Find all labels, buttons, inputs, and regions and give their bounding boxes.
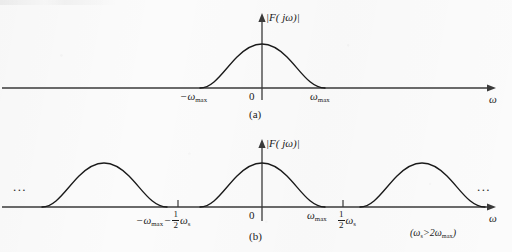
- panel-b-half-ws-label: 12ωs: [337, 210, 356, 230]
- panel-a-x-axis-arrowhead: [487, 84, 496, 91]
- panel-a-y-axis-label: |F( jω)|: [266, 12, 300, 23]
- condition-close-paren: ): [453, 227, 456, 238]
- panel-b-right-frac-numerator: 1: [338, 210, 345, 219]
- panel-b-caption: (b): [249, 230, 262, 242]
- panel-b-left-frac-denominator: 2: [172, 221, 179, 230]
- panel-b-right-fraction: 12: [338, 210, 345, 230]
- panel-b-origin-label: 0: [249, 210, 255, 221]
- panel-a-right-cutoff-label: ωmax: [310, 91, 330, 104]
- panel-b-right-frac-denominator: 2: [338, 221, 345, 230]
- panel-a-left-cutoff-label: −ωmax: [180, 91, 207, 104]
- panel-b-left-ellipsis: ...: [13, 179, 27, 195]
- panel-b-right-cutoff-label: ωmax: [307, 210, 327, 223]
- panel-a-origin-label: 0: [249, 91, 255, 102]
- panel-b-left-group-fraction: 12: [172, 210, 179, 230]
- panel-b-right-cutoff-sub: max: [315, 215, 327, 222]
- panel-b-left-group-label: −ωmax−12ωs: [136, 210, 191, 230]
- panel-b-replica-left-curve: [42, 163, 167, 207]
- condition-open-paren: (ω: [410, 227, 420, 238]
- panel-b-left-omega-s-sub: s: [188, 220, 191, 227]
- panel-a-y-axis-arrowhead: [258, 13, 265, 22]
- panel-b-x-axis-arrowhead: [487, 203, 496, 210]
- panel-b-y-axis-arrowhead: [258, 139, 265, 148]
- figure-container: |F( jω)| −ωmax 0 ωmax ω (a) |F( jω)| .: [0, 0, 512, 252]
- panel-b-left-group-sub: max: [151, 220, 163, 227]
- condition-inequality: >2ω: [423, 227, 442, 238]
- panel-b-left-frac-numerator: 1: [172, 210, 179, 219]
- panel-a-left-cutoff-base: −ω: [180, 90, 195, 102]
- condition-omega-max-sub: max: [442, 232, 453, 239]
- panel-a-right-cutoff-base: ω: [310, 90, 318, 102]
- panel-a-x-axis-label: ω: [489, 93, 497, 105]
- panel-a: |F( jω)| −ωmax 0 ωmax ω (a): [0, 0, 512, 126]
- panel-b-right-cutoff-base: ω: [307, 209, 315, 221]
- panel-b-left-group-base: −ω: [136, 214, 151, 226]
- panel-b-left-omega-s-base: ω: [180, 214, 188, 226]
- panel-b-replica-right-curve: [360, 163, 485, 207]
- panel-b-y-axis-label: |F( jω)|: [266, 138, 300, 149]
- panel-a-left-cutoff-sub: max: [195, 96, 207, 103]
- panel-a-caption: (a): [249, 108, 261, 120]
- panel-a-right-cutoff-sub: max: [318, 96, 330, 103]
- panel-b-x-axis-label: ω: [489, 212, 497, 224]
- panel-b: |F( jω)| ... ... −ωmax−12ωs 0 ωmax 12ωs …: [0, 126, 512, 252]
- panel-b-right-ellipsis: ...: [477, 179, 491, 195]
- panel-b-left-group-minus: −: [164, 214, 170, 226]
- panel-b-right-omega-s-sub: s: [353, 220, 356, 227]
- panel-b-condition-note: (ωs>2ωmax): [410, 227, 456, 239]
